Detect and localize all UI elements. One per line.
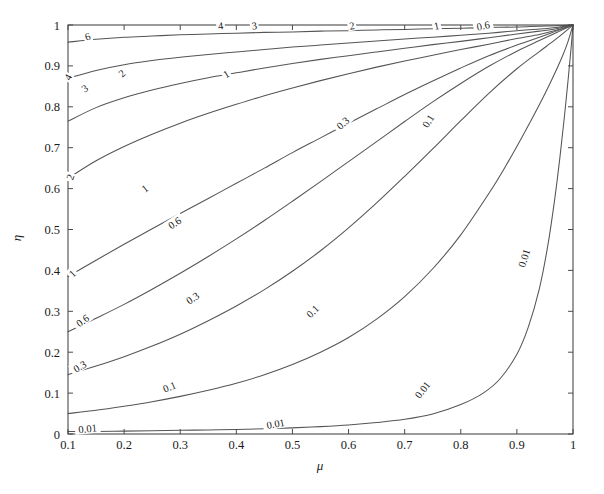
contour-inline-labels-group: 6443322211110.60.60.60.30.30.30.10.10.10…: [61, 18, 534, 436]
x-tick-label: 0.9: [509, 438, 525, 452]
contour-label-text: 0.01: [78, 422, 97, 435]
contour-label-0.1: 0.1: [418, 110, 438, 133]
y-tick-label: 0.3: [44, 305, 60, 319]
y-tick-label: 0.9: [44, 59, 60, 73]
contour-label-4: 4: [216, 19, 226, 32]
contour-label-text: 0.01: [516, 248, 532, 269]
contour-curves-group: [68, 25, 573, 432]
y-tick-label: 0.6: [44, 182, 60, 196]
contour-label-3: 3: [78, 81, 92, 95]
contour-label-2: 2: [63, 171, 77, 183]
contour-label-2: 2: [347, 19, 357, 32]
contour-label-1: 1: [65, 266, 79, 280]
x-tick-label: 0.8: [453, 438, 469, 452]
y-tick-label: 0.2: [44, 346, 60, 360]
x-tick-label: 0.6: [341, 438, 357, 452]
y-tick-label: 1: [54, 19, 60, 33]
contour-label-4: 4: [61, 71, 75, 84]
contour-line-6: [68, 25, 573, 42]
y-tick-label: 0.5: [44, 223, 60, 237]
contour-label-3: 3: [249, 19, 259, 32]
contour-label-0.1: 0.1: [301, 300, 323, 322]
contour-label-0.3: 0.3: [181, 288, 204, 309]
contour-label-1: 1: [138, 181, 152, 195]
contour-label-1: 1: [220, 67, 233, 81]
x-tick-label: 0.2: [116, 438, 132, 452]
contour-line-0.1: [68, 25, 573, 414]
y-tick-label: 0: [54, 428, 60, 442]
x-tick-label: 0.3: [172, 438, 188, 452]
contour-plot-canvas: 0.10.20.30.40.50.60.70.80.9100.10.20.30.…: [0, 0, 604, 494]
contour-label-1: 1: [431, 19, 442, 32]
x-tick-label: 0.7: [397, 438, 413, 452]
contour-line-0.3: [68, 25, 573, 375]
contour-label-0.6: 0.6: [71, 310, 94, 331]
contour-label-0.01: 0.01: [262, 416, 289, 432]
x-tick-label: 1: [570, 438, 576, 452]
y-tick-label: 0.7: [44, 141, 60, 155]
contour-line-2: [68, 25, 573, 178]
contour-label-0.6: 0.6: [472, 18, 494, 33]
x-tick-label: 0.4: [229, 438, 245, 452]
x-tick-label: 0.1: [60, 438, 76, 452]
contour-label-text: 0.6: [476, 19, 491, 32]
contour-label-0.6: 0.6: [163, 212, 186, 233]
contour-plot-figure: 0.10.20.30.40.50.60.70.80.9100.10.20.30.…: [0, 0, 604, 494]
contour-line-4: [68, 25, 573, 78]
contour-label-0.01: 0.01: [410, 376, 435, 403]
y-tick-label: 0.8: [44, 100, 60, 114]
contour-label-text: 0.01: [266, 417, 286, 431]
y-tick-label: 0.4: [44, 264, 60, 278]
contour-label-2: 2: [115, 66, 129, 80]
contour-line-3: [68, 25, 573, 121]
contour-label-0.01: 0.01: [515, 244, 534, 272]
contour-line-0.6: [68, 25, 573, 332]
contour-line-1: [68, 25, 573, 277]
contour-label-0.1: 0.1: [158, 378, 181, 396]
y-tick-label: 0.1: [44, 387, 60, 401]
x-tick-label: 0.5: [285, 438, 301, 452]
x-axis-title: μ: [316, 458, 324, 473]
y-axis-title: η: [9, 235, 24, 241]
